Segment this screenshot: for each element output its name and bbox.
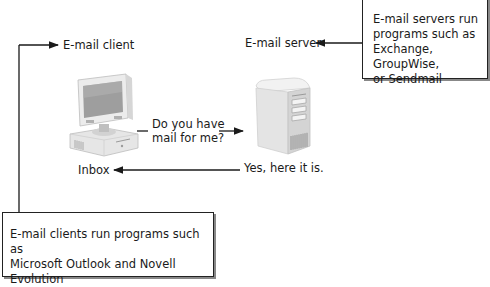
tower-server-icon [248, 76, 318, 156]
inbox-label: Inbox [78, 163, 109, 177]
client-callout-line-2: Microsoft Outlook and Novell Evolution [10, 257, 213, 287]
server-callout-box: E-mail servers run programs such as Exch… [362, 0, 488, 79]
client-callout-connector [19, 45, 58, 213]
server-callout-line-4: or Sendmail [373, 72, 487, 87]
request-message: Do you have mail for me? [152, 117, 225, 145]
request-line-2: mail for me? [152, 131, 225, 145]
client-callout-line-1: E-mail clients run programs such as [10, 227, 213, 257]
response-message: Yes, here it is. [244, 161, 324, 175]
email-server-label: E-mail server [245, 36, 321, 50]
server-callout-line-1: E-mail servers run [373, 12, 487, 27]
client-callout-box: E-mail clients run programs such as Micr… [2, 212, 214, 277]
server-callout-line-3: Exchange, GroupWise, [373, 42, 487, 72]
request-line-1: Do you have [152, 117, 225, 131]
desktop-computer-icon [66, 72, 142, 158]
server-callout-line-2: programs such as [373, 27, 487, 42]
email-client-label: E-mail client [63, 38, 134, 52]
